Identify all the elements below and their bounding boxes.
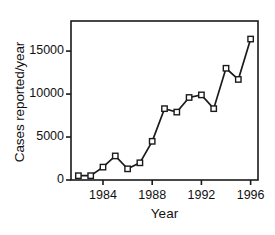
data-point-marker [113, 153, 118, 158]
plot-area [0, 0, 275, 235]
data-markers [76, 36, 254, 178]
data-point-marker [150, 139, 155, 144]
data-point-marker [137, 160, 142, 165]
data-point-marker [248, 36, 253, 41]
data-point-marker [100, 164, 105, 169]
data-point-marker [236, 77, 241, 82]
data-point-marker [162, 106, 167, 111]
data-point-marker [199, 92, 204, 97]
data-point-marker [211, 106, 216, 111]
chart-figure: Cases reported/year 050001000015000 1984… [0, 0, 275, 235]
data-point-marker [186, 95, 191, 100]
data-point-marker [88, 173, 93, 178]
data-point-marker [125, 166, 130, 171]
data-point-marker [174, 109, 179, 114]
data-point-marker [223, 66, 228, 71]
data-point-marker [76, 173, 81, 178]
axis-frame-rect [71, 21, 258, 180]
axis-frame [71, 21, 258, 180]
